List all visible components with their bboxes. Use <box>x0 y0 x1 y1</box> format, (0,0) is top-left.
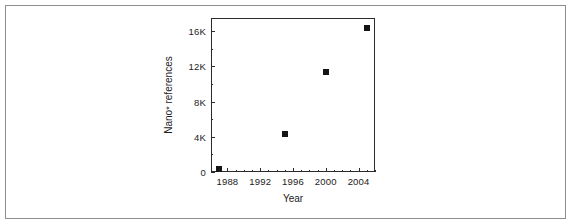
x-axis-major-tick <box>359 168 360 172</box>
y-axis-label-suffix: references <box>163 56 174 106</box>
x-axis-minor-tick <box>334 170 335 172</box>
y-axis-tick-label: 12K <box>177 61 206 72</box>
x-axis-minor-tick <box>367 170 368 172</box>
y-axis-minor-tick <box>211 154 213 155</box>
y-axis-tick-label: 16K <box>177 26 206 37</box>
data-point-marker <box>323 69 329 75</box>
x-axis-major-tick <box>227 168 228 172</box>
x-axis-tick-label: 1996 <box>282 176 304 187</box>
x-axis-major-tick <box>260 168 261 172</box>
x-axis-minor-tick <box>301 170 302 172</box>
x-axis-minor-tick <box>285 170 286 172</box>
y-axis-major-tick <box>211 31 215 32</box>
x-axis-minor-tick <box>268 170 269 172</box>
y-axis-tick-label: 4K <box>177 131 206 142</box>
x-axis-minor-tick <box>236 170 237 172</box>
y-axis-tick-label: 0 <box>177 167 206 178</box>
x-axis-major-tick <box>326 168 327 172</box>
x-axis-minor-tick <box>309 170 310 172</box>
y-axis-major-tick <box>211 172 215 173</box>
plot-data-layer <box>211 18 375 172</box>
y-axis-minor-tick <box>211 49 213 50</box>
y-axis-tick-label: 8K <box>177 96 206 107</box>
y-axis-major-tick <box>211 102 215 103</box>
x-axis-tick-label: 2004 <box>348 176 370 187</box>
x-axis-tick-label: 2000 <box>315 176 337 187</box>
y-axis-major-tick <box>211 66 215 67</box>
x-axis-minor-tick <box>219 170 220 172</box>
y-axis-label-superscript: * <box>163 106 173 110</box>
x-axis-minor-tick <box>375 170 376 172</box>
x-axis-label: Year <box>283 193 303 204</box>
x-axis-tick-label: 1992 <box>249 176 271 187</box>
x-axis-major-tick <box>293 168 294 172</box>
data-point-marker <box>364 25 370 31</box>
x-axis-minor-tick <box>277 170 278 172</box>
y-axis-major-tick <box>211 137 215 138</box>
x-axis-minor-tick <box>350 170 351 172</box>
x-axis-minor-tick <box>244 170 245 172</box>
y-axis-minor-tick <box>211 119 213 120</box>
x-axis-minor-tick <box>318 170 319 172</box>
scatter-chart: Nano* references Year 198819921996200020… <box>0 0 571 224</box>
x-axis-tick-label: 1988 <box>216 176 238 187</box>
y-axis-label: Nano* references <box>163 56 174 133</box>
x-axis-minor-tick <box>342 170 343 172</box>
figure-panel: Nano* references Year 198819921996200020… <box>0 0 571 224</box>
y-axis-label-prefix: Nano <box>163 110 174 134</box>
x-axis-minor-tick <box>252 170 253 172</box>
data-point-marker <box>282 131 288 137</box>
y-axis-minor-tick <box>211 84 213 85</box>
